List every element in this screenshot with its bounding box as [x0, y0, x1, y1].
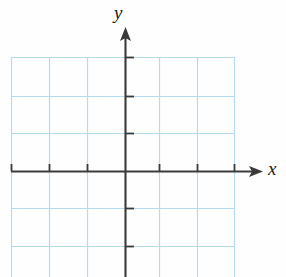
grid-horizontal-lines	[11, 58, 235, 247]
coordinate-plane-figure: y x	[0, 0, 286, 277]
grid-vertical-lines	[12, 57, 235, 277]
x-axis-ticks	[12, 164, 235, 171]
x-axis-label: x	[268, 159, 276, 178]
coordinate-grid-svg	[0, 0, 286, 277]
y-axis-ticks	[126, 58, 134, 247]
y-axis-label: y	[114, 3, 122, 22]
